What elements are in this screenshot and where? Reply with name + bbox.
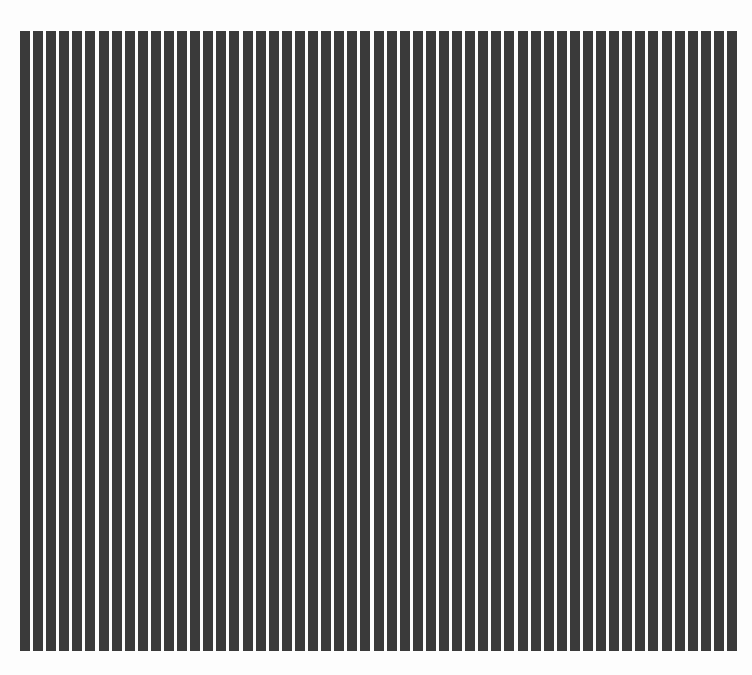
stripe-bar — [20, 31, 30, 651]
stripe-bar — [177, 31, 187, 651]
stripe-bar — [295, 31, 305, 651]
stripe-bar — [190, 31, 200, 651]
stripe-bar — [85, 31, 95, 651]
stripe-bar — [59, 31, 69, 651]
stripe-bar — [531, 31, 541, 651]
stripe-bar — [662, 31, 672, 651]
stripe-bar — [360, 31, 370, 651]
stripe-bar — [347, 31, 357, 651]
stripe-bar — [465, 31, 475, 651]
stripe-bar — [269, 31, 279, 651]
stripe-bar — [609, 31, 619, 651]
stripe-bar — [46, 31, 56, 651]
stripe-bar — [439, 31, 449, 651]
stripe-bar — [478, 31, 488, 651]
stripe-bar — [426, 31, 436, 651]
stripe-bar — [72, 31, 82, 651]
stripe-bar — [452, 31, 462, 651]
stripe-bar — [334, 31, 344, 651]
stripe-bar — [321, 31, 331, 651]
stripe-bar — [570, 31, 580, 651]
stripe-bar — [151, 31, 161, 651]
stripe-bar — [544, 31, 554, 651]
stripe-bar — [557, 31, 567, 651]
stripe-bar — [216, 31, 226, 651]
stripe-bar — [701, 31, 711, 651]
stripe-bar — [99, 31, 109, 651]
stripe-bar — [387, 31, 397, 651]
stripe-bar — [308, 31, 318, 651]
stripe-bar — [400, 31, 410, 651]
stripe-bar — [413, 31, 423, 651]
stripe-bar — [125, 31, 135, 651]
stripe-bar — [256, 31, 266, 651]
stripe-bar — [504, 31, 514, 651]
stripe-bar — [635, 31, 645, 651]
stripe-bar — [622, 31, 632, 651]
stripe-bar — [164, 31, 174, 651]
stripe-bar — [282, 31, 292, 651]
vertical-stripe-grating — [20, 31, 737, 651]
stripe-bar — [138, 31, 148, 651]
stripe-bar — [648, 31, 658, 651]
stripe-bar — [33, 31, 43, 651]
stripe-bar — [675, 31, 685, 651]
stripe-bar — [203, 31, 213, 651]
stripe-bar — [491, 31, 501, 651]
stripe-bar — [688, 31, 698, 651]
stripe-bar — [727, 31, 737, 651]
stripe-bar — [112, 31, 122, 651]
stripe-bar — [714, 31, 724, 651]
stripe-bar — [229, 31, 239, 651]
stripe-bar — [596, 31, 606, 651]
stripe-bar — [243, 31, 253, 651]
stripe-bar — [583, 31, 593, 651]
stripe-image — [0, 0, 752, 675]
stripe-bar — [374, 31, 384, 651]
stripe-bar — [518, 31, 528, 651]
